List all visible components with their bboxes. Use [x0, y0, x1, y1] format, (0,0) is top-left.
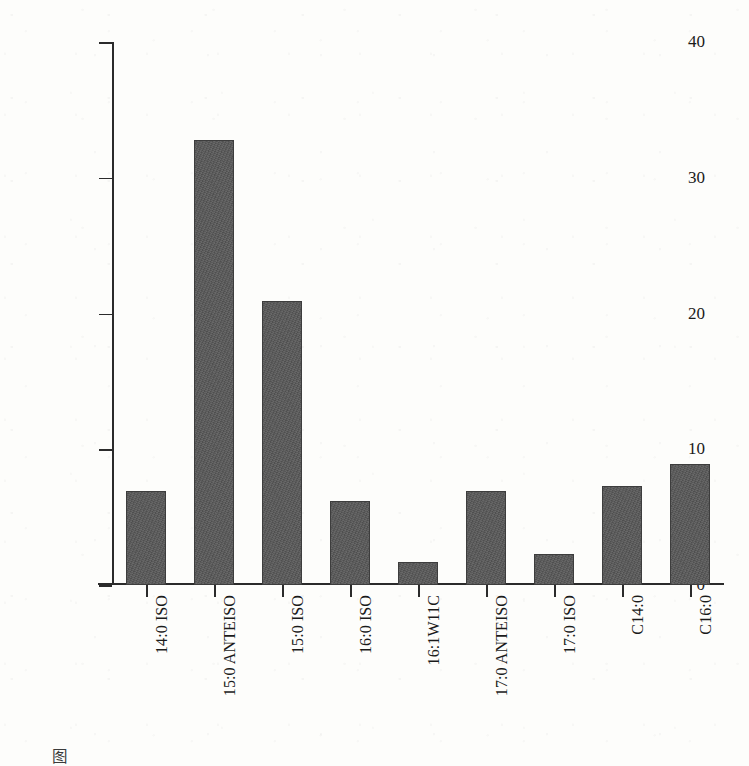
bar	[670, 464, 710, 585]
figure-caption: 图	[52, 744, 68, 766]
y-axis-tick-label: 20	[688, 303, 705, 323]
x-axis-tick	[486, 585, 488, 597]
x-axis-tick	[622, 585, 624, 597]
y-axis-tick	[99, 585, 112, 587]
x-axis-tick	[214, 585, 216, 597]
bar	[194, 140, 234, 585]
y-axis-tick	[99, 314, 112, 316]
x-axis-tick	[146, 585, 148, 597]
x-axis-tick	[282, 585, 284, 597]
x-axis-tick	[690, 585, 692, 597]
y-axis-tick	[99, 178, 112, 180]
bar	[262, 301, 302, 585]
x-axis-category-label: 17:0 ANTEISO	[493, 595, 511, 696]
bar	[466, 491, 506, 585]
x-axis-tick	[418, 585, 420, 597]
x-axis-category-label: 15:0 ISO	[289, 595, 307, 654]
x-axis-category-label: 17:0 ISO	[561, 595, 579, 654]
x-axis-category-label: 16:1W11C	[425, 595, 443, 665]
y-axis-tick	[99, 42, 112, 44]
y-axis-tick	[99, 449, 112, 451]
y-axis-line	[112, 42, 114, 585]
bar	[330, 501, 370, 585]
bar	[398, 562, 438, 585]
plot-area: 010203040	[112, 42, 724, 585]
bar	[534, 554, 574, 585]
bar	[126, 491, 166, 585]
x-axis-category-label: 14:0 ISO	[153, 595, 171, 654]
x-axis-category-label: 16:0 ISO	[357, 595, 375, 654]
x-axis-tick	[554, 585, 556, 597]
x-axis-tick	[350, 585, 352, 597]
x-axis-category-label: 15:0 ANTEISO	[221, 595, 239, 696]
x-axis-category-label: C16:0	[697, 595, 715, 635]
y-axis-tick-label: 10	[688, 439, 705, 459]
y-axis-tick-label: 30	[688, 168, 705, 188]
y-axis-tick-label: 40	[688, 32, 705, 52]
bar	[602, 486, 642, 585]
x-axis-category-label: C14:0	[629, 595, 647, 635]
